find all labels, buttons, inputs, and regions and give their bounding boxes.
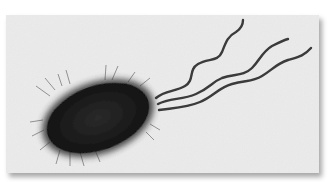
micrograph-photo: Grayscale micrograph of a rod-shaped bac… xyxy=(6,15,319,173)
bacterium-illustration xyxy=(6,15,319,173)
